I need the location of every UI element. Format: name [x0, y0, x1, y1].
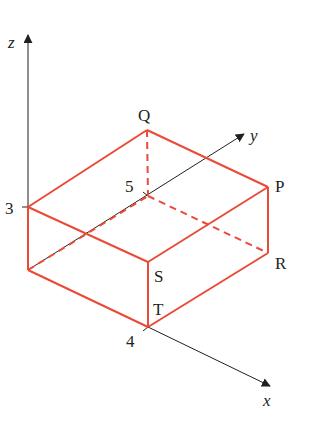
x-axis-label: x — [262, 391, 271, 410]
x-axis — [148, 327, 270, 386]
tick-label-y5: 5 — [125, 177, 134, 196]
tick-label-x4: 4 — [126, 332, 135, 351]
vertex-label-r: R — [275, 254, 287, 273]
vertex-label-p: P — [275, 177, 284, 196]
vertex-label-q: Q — [138, 106, 150, 125]
tick-label-z3: 3 — [5, 199, 14, 218]
vertex-label-s: S — [154, 267, 163, 286]
box-hidden-edges — [28, 130, 268, 270]
vertex-label-t: T — [153, 300, 164, 319]
axes — [22, 35, 270, 386]
cuboid-diagram: z y x 3 5 4 Q P R S T — [0, 0, 311, 434]
z-axis-label: z — [7, 33, 15, 52]
y-axis-label: y — [248, 126, 258, 145]
